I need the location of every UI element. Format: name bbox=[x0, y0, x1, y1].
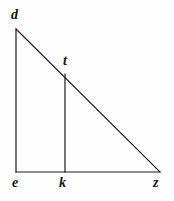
vertex-label-e: e bbox=[12, 176, 18, 190]
geometry-figure: d t e k z bbox=[0, 0, 174, 201]
segments-group bbox=[16, 29, 160, 172]
vertex-label-z: z bbox=[153, 176, 158, 190]
vertex-label-d: d bbox=[11, 8, 18, 22]
vertex-label-k: k bbox=[59, 176, 66, 190]
triangle-diagram-svg bbox=[0, 0, 174, 201]
segment-dz-hypotenuse bbox=[16, 29, 160, 172]
vertex-label-t: t bbox=[63, 54, 67, 68]
